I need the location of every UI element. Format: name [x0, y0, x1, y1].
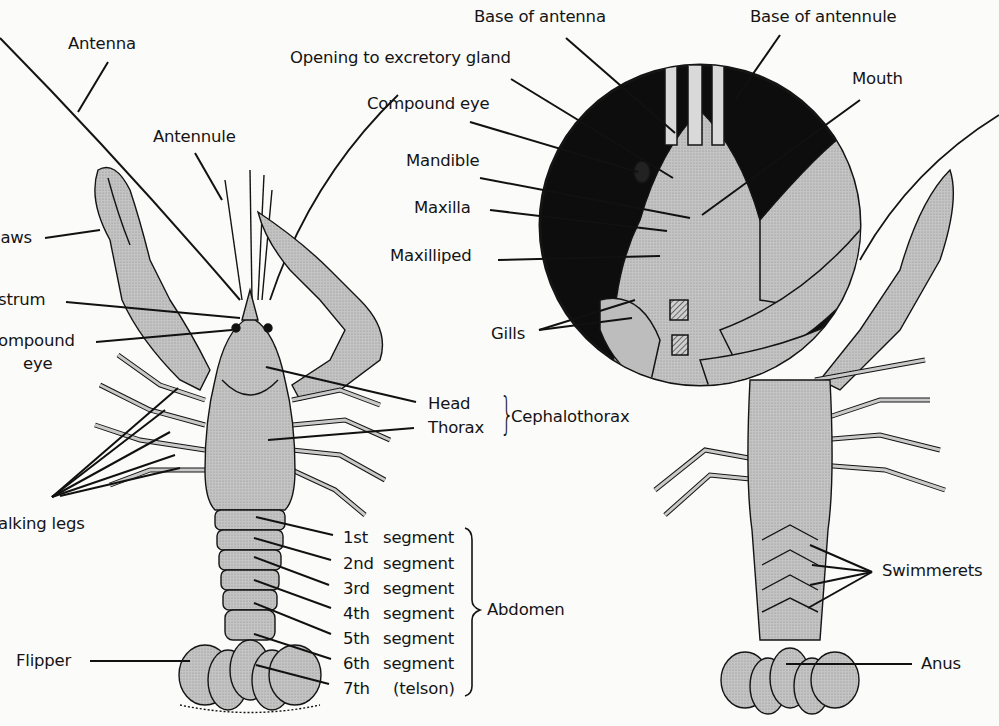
label-antenna: Antenna [68, 36, 136, 53]
segment-ordinal: 4th [343, 606, 370, 623]
crayfish-anatomy-diagram: Base of antenna Base of antennule Openin… [0, 0, 999, 726]
label-compound-eye-l2: eye [23, 356, 52, 373]
label-walking-legs: alking legs [0, 516, 85, 533]
label-antennule: Antennule [153, 129, 236, 146]
label-base-of-antenna: Base of antenna [474, 9, 606, 26]
segment-ordinal: 2nd [343, 556, 374, 573]
label-mouth: Mouth [852, 71, 903, 88]
label-base-of-antennule: Base of antennule [750, 9, 896, 26]
label-thorax: Thorax [428, 420, 484, 437]
label-cephalothorax: Cephalothorax [511, 409, 629, 426]
label-claws: laws [0, 230, 32, 247]
segment-ordinal: 1st [343, 530, 368, 547]
label-abdomen: Abdomen [487, 602, 565, 619]
mouthparts-inset [540, 65, 880, 420]
segment-name: (telson) [393, 681, 455, 698]
segment-name: segment [383, 530, 454, 547]
label-compound-eye-l1: ompound [0, 333, 75, 350]
segment-name: segment [383, 556, 454, 573]
segment-name: segment [383, 581, 454, 598]
label-mandible: Mandible [406, 153, 479, 170]
label-opening-excretory-gland: Opening to excretory gland [290, 50, 511, 67]
segment-name: segment [383, 631, 454, 648]
segment-name: segment [383, 606, 454, 623]
label-gills: Gills [491, 326, 525, 343]
label-compound-eye-inset: Compound eye [367, 96, 490, 113]
label-head: Head [428, 396, 470, 413]
segment-ordinal: 3rd [343, 581, 370, 598]
segment-ordinal: 5th [343, 631, 370, 648]
label-swimmerets: Swimmerets [882, 563, 983, 580]
label-maxilla: Maxilla [414, 200, 471, 217]
label-anus: Anus [921, 656, 961, 673]
segment-ordinal: 7th [343, 681, 370, 698]
segment-ordinal: 6th [343, 656, 370, 673]
segment-name: segment [383, 656, 454, 673]
label-maxilliped: Maxilliped [390, 248, 472, 265]
label-flipper: Flipper [16, 653, 71, 670]
label-rostrum: strum [0, 292, 45, 309]
